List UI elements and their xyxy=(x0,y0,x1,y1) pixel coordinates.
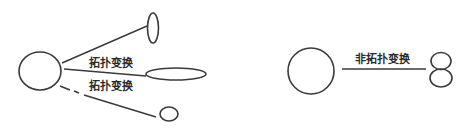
small-circle xyxy=(160,107,178,121)
right-source-circle xyxy=(288,48,334,94)
non-topological-label: 非拓扑变换 xyxy=(355,52,411,66)
figure-eight-top-loop xyxy=(431,53,451,70)
left-source-circle xyxy=(19,52,61,90)
tall-narrow-ellipse xyxy=(148,13,159,43)
topological-label-2: 拓扑变换 xyxy=(89,79,134,93)
topological-label-1: 拓扑变换 xyxy=(89,56,134,70)
wide-flat-ellipse xyxy=(146,68,206,80)
figure-eight xyxy=(430,53,452,88)
figure-eight-bottom-loop xyxy=(430,69,452,87)
right-non-topological-group: 非拓扑变换 xyxy=(288,48,452,94)
connector-to-wide-ellipse xyxy=(64,69,146,76)
transformation-diagram: 拓扑变换 拓扑变换 非拓扑变换 xyxy=(0,0,467,136)
left-topological-group: 拓扑变换 拓扑变换 xyxy=(19,13,206,121)
